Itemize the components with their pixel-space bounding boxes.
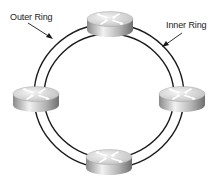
outer-ring-label: Outer Ring (10, 12, 53, 22)
router-icon (87, 12, 133, 38)
router-icon (13, 87, 59, 113)
inner-ring (44, 34, 174, 158)
inner-ring-label: Inner Ring (166, 20, 207, 30)
router-icon (159, 87, 205, 113)
outer-ring-arrow (28, 23, 53, 39)
router-icon (86, 150, 132, 176)
inner-ring-arrow (162, 33, 182, 47)
